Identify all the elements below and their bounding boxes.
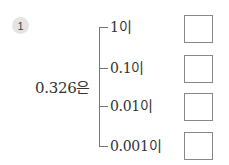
answer-box[interactable] — [184, 132, 213, 160]
bracket-vertical-line — [99, 27, 100, 147]
branch-label: 0.01이 — [110, 98, 153, 114]
answer-box[interactable] — [184, 93, 213, 121]
branch-label: 0.1이 — [110, 60, 144, 76]
bracket-branch-line — [99, 68, 108, 69]
problem-number-badge: 1 — [12, 17, 29, 34]
bracket-branch-line — [99, 27, 108, 28]
problem-stem: 0.326은 — [35, 76, 90, 97]
answer-box[interactable] — [184, 55, 213, 83]
bracket-branch-line — [99, 106, 108, 107]
branch-label: 1이 — [110, 19, 131, 35]
branch-label: 0.001이 — [110, 138, 161, 154]
bracket-branch-line — [99, 146, 108, 147]
answer-box[interactable] — [184, 15, 213, 43]
